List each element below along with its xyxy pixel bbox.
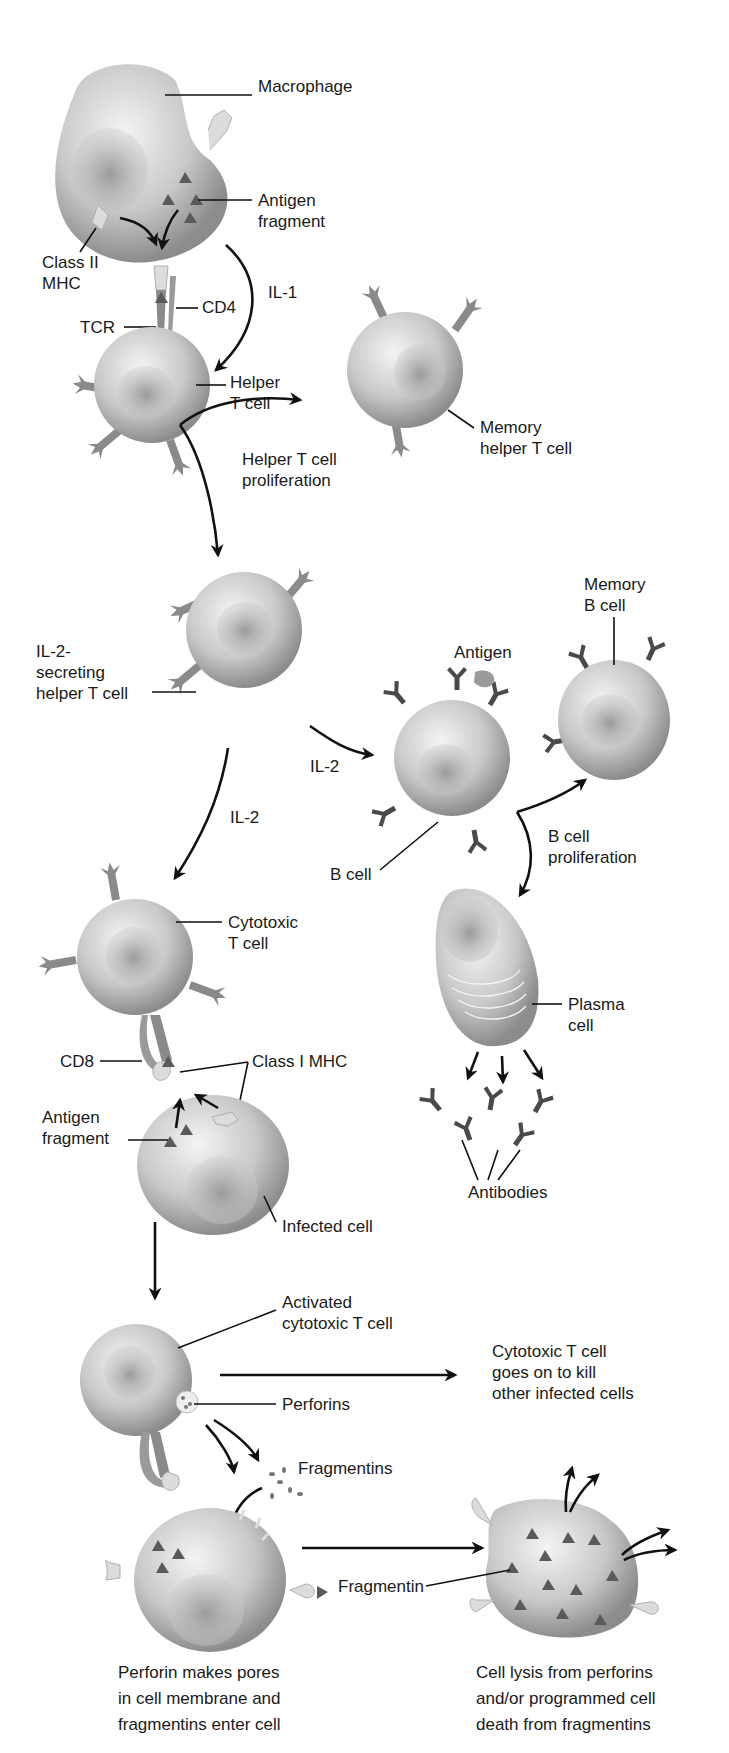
infected-cell (137, 1095, 289, 1235)
label-cytotoxic-t: CytotoxicT cell (228, 913, 298, 953)
lysing-cell (470, 1468, 675, 1638)
memory-helper-t-cell (347, 281, 485, 459)
label-memory-helper-t: Memoryhelper T cell (480, 418, 572, 458)
label-il2-secreting: IL-2-secretinghelper T cell (36, 642, 128, 703)
macrophage-cell (55, 64, 232, 262)
activated-cytotoxic-t-cell (80, 1324, 198, 1490)
cytotoxic-t-cell (37, 861, 229, 1080)
label-infected-cell: Infected cell (282, 1217, 373, 1236)
label-antigen-fragment-top: Antigenfragment (258, 191, 325, 231)
label-fragmentins: Fragmentins (298, 1459, 392, 1478)
label-b-proliferation: B cellproliferation (548, 827, 637, 867)
label-b-cell: B cell (330, 865, 372, 884)
label-il2-to-b: IL-2 (310, 757, 339, 776)
label-antibodies: Antibodies (468, 1183, 547, 1202)
label-activated-cytotoxic: Activatedcytotoxic T cell (282, 1293, 393, 1333)
helper-t-cell (71, 327, 210, 479)
diagram-canvas: Macrophage Antigenfragment Class IIMHC C… (0, 0, 729, 1753)
label-helper-t: HelperT cell (230, 373, 280, 413)
immune-response-diagram: Macrophage Antigenfragment Class IIMHC C… (0, 0, 729, 1753)
label-class-i-mhc: Class I MHC (252, 1052, 347, 1071)
label-fragmentin: Fragmentin (338, 1577, 424, 1596)
il2-secreting-helper-t-cell (164, 564, 317, 697)
label-macrophage: Macrophage (258, 77, 353, 96)
label-cd4: CD4 (202, 298, 236, 317)
label-perforins: Perforins (282, 1395, 350, 1414)
label-class-ii-mhc: Class IIMHC (42, 253, 99, 293)
tcr-cd4-complex (154, 266, 176, 335)
plasma-cell (436, 888, 539, 1046)
b-cell (370, 667, 510, 854)
antibodies-group (418, 1086, 556, 1151)
label-kill-others: Cytotoxic T cellgoes on to killother inf… (492, 1342, 634, 1403)
label-caption-right: Cell lysis from perforinsand/or programm… (476, 1663, 656, 1734)
label-memory-b: MemoryB cell (584, 575, 646, 615)
label-antigen: Antigen (454, 643, 512, 662)
target-cell-pores (106, 1508, 328, 1652)
label-cd8: CD8 (60, 1052, 94, 1071)
label-caption-left: Perforin makes poresin cell membrane and… (118, 1663, 281, 1734)
label-helper-proliferation: Helper T cellproliferation (242, 450, 337, 490)
antigen-particle (474, 670, 494, 687)
label-il1: IL-1 (268, 283, 297, 302)
label-antigen-fragment-infected: Antigenfragment (42, 1108, 109, 1148)
memory-b-cell (542, 635, 670, 780)
label-il2-to-cyto: IL-2 (230, 808, 259, 827)
label-tcr: TCR (80, 318, 115, 337)
label-plasma-cell: Plasmacell (568, 995, 625, 1035)
